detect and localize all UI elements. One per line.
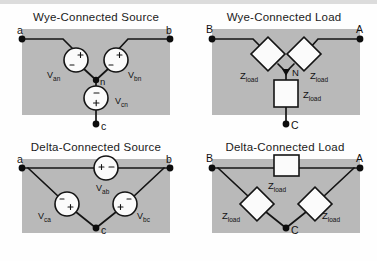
figure-canvas: Wye-Connected Source Wye-Connected Load … <box>0 0 377 261</box>
label-v-cn: Vcn <box>115 96 128 108</box>
v-cn-sub: cn <box>121 101 128 108</box>
label-terminal-B-wye-load: B <box>206 23 213 35</box>
z-delta-top-sub: load <box>274 186 286 193</box>
label-neutral-N-wye-load: N <box>292 67 299 78</box>
label-z-delta-right: Zload <box>322 210 340 223</box>
neutral-dot-n-source <box>93 77 99 83</box>
label-z-delta-left: Zload <box>222 210 240 223</box>
label-terminal-b-delta-source: b <box>166 153 172 165</box>
z-delta-right-sub: load <box>328 216 340 223</box>
label-v-bn: Vbn <box>128 70 141 82</box>
label-terminal-b-wye-source: b <box>166 24 172 36</box>
source-vcn-symbol <box>84 86 108 110</box>
label-terminal-A-delta-load: A <box>356 152 363 164</box>
load-z-rect-top-delta <box>274 155 299 176</box>
label-v-bc: Vbc <box>137 211 150 223</box>
terminal-dot-B-load <box>209 36 216 43</box>
load-z-rect-bottom <box>274 80 298 107</box>
source-vca-symbol <box>55 192 79 216</box>
label-terminal-c-delta-source: c <box>101 224 106 236</box>
circuit-diagram-svg <box>0 0 377 261</box>
source-vab-symbol <box>94 156 118 180</box>
terminal-dot-a-source <box>19 36 26 43</box>
terminal-dot-C-load <box>283 121 290 128</box>
label-z-wye-left: Zload <box>240 70 258 83</box>
source-van-symbol <box>64 48 88 72</box>
label-terminal-a-wye-source: a <box>17 24 23 36</box>
terminal-dot-a-delta-source <box>19 165 26 172</box>
v-an-sub: an <box>53 75 60 82</box>
label-terminal-B-delta-load: B <box>206 152 213 164</box>
v-bc-sub: bc <box>143 216 150 223</box>
v-bn-sub: bn <box>134 75 141 82</box>
z-wye-left-sub: load <box>246 76 258 83</box>
terminal-dot-b-delta-source <box>167 165 174 172</box>
terminal-dot-B-delta-load <box>209 165 216 172</box>
terminal-dot-C-delta-load <box>283 225 290 232</box>
terminal-dot-c-source <box>93 121 100 128</box>
z-wye-bottom-sub: load <box>309 95 321 102</box>
z-wye-right-sub: load <box>316 76 328 83</box>
terminal-dot-A-delta-load <box>357 165 364 172</box>
terminal-dot-c-delta-source <box>93 225 100 232</box>
terminal-dot-b-source <box>167 36 174 43</box>
label-neutral-n-wye-source: n <box>100 76 105 87</box>
label-terminal-A-wye-load: A <box>356 23 363 35</box>
v-ab-sub: ab <box>102 188 109 195</box>
source-vbc-symbol <box>113 192 137 216</box>
label-z-wye-right: Zload <box>310 70 328 83</box>
label-v-an: Van <box>47 70 60 82</box>
z-delta-left-sub: load <box>228 216 240 223</box>
terminal-dot-A-load <box>357 36 364 43</box>
label-z-delta-top: Zload <box>268 180 286 193</box>
label-terminal-C-delta-load: C <box>291 224 299 236</box>
label-z-wye-bottom: Zload <box>303 89 321 102</box>
label-terminal-C-wye-load: C <box>291 119 299 131</box>
v-ca-sub: ca <box>44 216 51 223</box>
label-terminal-a-delta-source: a <box>17 153 23 165</box>
label-terminal-c-wye-source: c <box>101 120 106 132</box>
label-v-ca: Vca <box>38 211 51 223</box>
source-vbn-symbol <box>104 48 128 72</box>
label-v-ab: Vab <box>96 183 109 195</box>
